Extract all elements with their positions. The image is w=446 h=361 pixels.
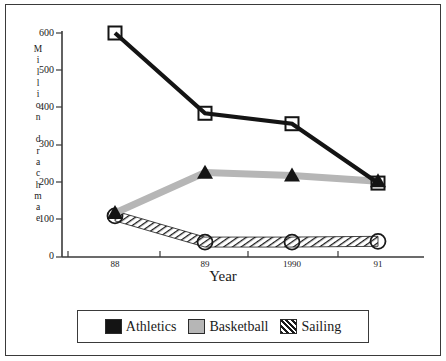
legend-entry-basketball[interactable]: Basketball: [182, 319, 274, 335]
chart-figure: M i l l i o n d r a c h m a e 600 500 40…: [0, 0, 446, 361]
gray-square-swatch-icon: [188, 319, 205, 334]
legend-label-basketball: Basketball: [209, 319, 268, 335]
plot-area: [0, 0, 446, 361]
hatched-square-swatch-icon: [280, 319, 297, 334]
x-tick-marks: [68, 251, 338, 257]
legend-label-sailing: Sailing: [301, 319, 341, 335]
black-square-swatch-icon: [105, 319, 122, 334]
chart-legend: Athletics Basketball Sailing: [77, 310, 369, 343]
series-sailing: [108, 208, 386, 249]
legend-entry-athletics[interactable]: Athletics: [99, 319, 183, 335]
y-tick-marks: [56, 33, 62, 257]
series-athletics: [109, 27, 385, 190]
series-basketball: [107, 165, 386, 219]
legend-entry-sailing[interactable]: Sailing: [274, 319, 347, 335]
legend-label-athletics: Athletics: [126, 319, 177, 335]
